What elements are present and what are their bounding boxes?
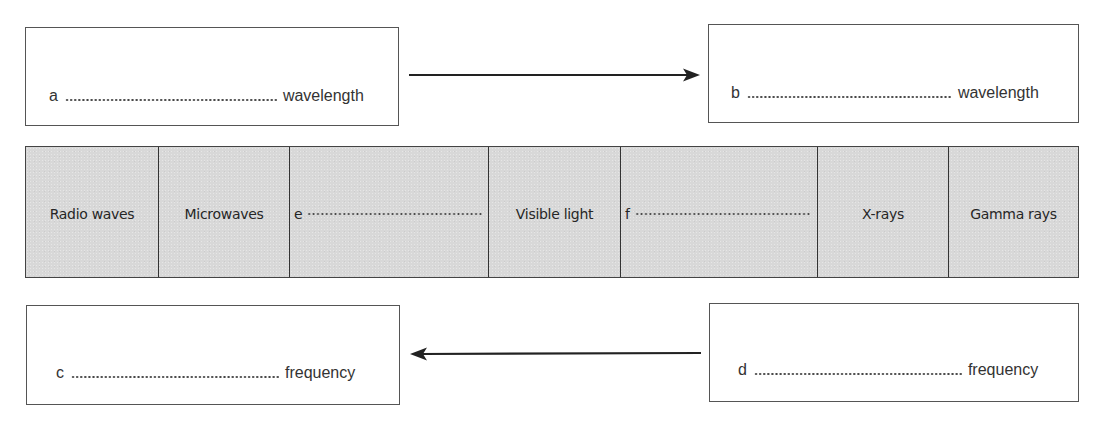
frequency-label-d: frequency (968, 361, 1038, 379)
answer-box-c: c frequency (26, 305, 400, 405)
answer-line-b: b wavelength (709, 84, 1078, 102)
band-microwaves: Microwaves (159, 147, 290, 277)
band-label: Gamma rays (970, 206, 1057, 222)
blank-letter-d: d (738, 361, 747, 379)
band-blank-f: f (621, 147, 818, 277)
band-label: Visible light (516, 206, 593, 222)
blank-letter-b: b (731, 84, 740, 102)
answer-box-b: b wavelength (708, 24, 1079, 123)
band-label: Microwaves (185, 206, 264, 222)
fill-in-blank-e[interactable] (307, 213, 482, 215)
fill-in-blank-f[interactable] (635, 213, 811, 215)
arrow-left-icon (405, 345, 705, 363)
spectrum-band: Radio waves Microwaves e Visible light f… (25, 146, 1079, 278)
answer-line-a: a wavelength (26, 87, 398, 105)
band-visible-light: Visible light (489, 147, 621, 277)
arrow-right-icon (405, 66, 705, 84)
band-label: X-rays (862, 206, 904, 222)
band-radio-waves: Radio waves (26, 147, 159, 277)
band-blank-e: e (290, 147, 489, 277)
fill-in-blank-b[interactable] (747, 96, 952, 98)
blank-letter-e: e (294, 206, 302, 222)
answer-line-c: c frequency (27, 364, 399, 382)
answer-box-d: d frequency (709, 303, 1079, 402)
fill-in-blank-a[interactable] (65, 99, 277, 101)
blank-letter-a: a (49, 87, 58, 105)
band-x-rays: X-rays (818, 147, 949, 277)
answer-box-a: a wavelength (25, 27, 399, 126)
blank-letter-c: c (56, 364, 64, 382)
band-gamma-rays: Gamma rays (949, 147, 1078, 277)
band-label: Radio waves (50, 206, 135, 222)
wavelength-label-a: wavelength (283, 87, 364, 105)
wavelength-label-b: wavelength (958, 84, 1039, 102)
answer-line-d: d frequency (710, 361, 1078, 379)
fill-in-blank-d[interactable] (754, 373, 962, 375)
blank-letter-f: f (625, 206, 630, 222)
fill-in-blank-c[interactable] (71, 376, 279, 378)
frequency-label-c: frequency (285, 364, 355, 382)
